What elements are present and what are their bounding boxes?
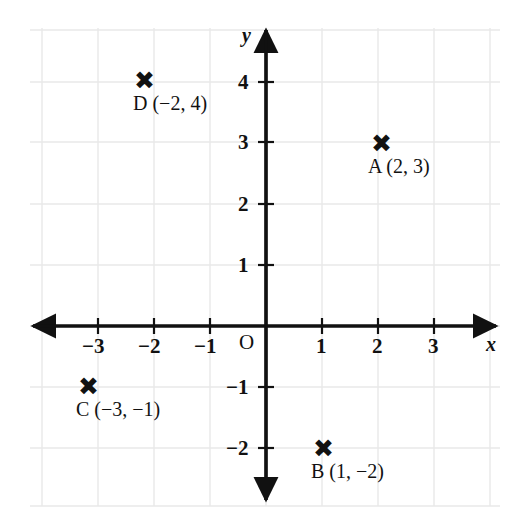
- y-tick-label-pos3: 3: [238, 132, 249, 153]
- x-tick-label-pos2: 2: [372, 336, 383, 357]
- x-tick-label-neg2: −2: [138, 336, 160, 357]
- x-tick-label-pos1: 1: [316, 336, 327, 357]
- x-tick-label-neg1: −1: [194, 336, 216, 357]
- y-tick-label-pos1: 1: [238, 255, 249, 276]
- point-marker-d[interactable]: ✖: [134, 68, 155, 93]
- y-axis-name: y: [242, 25, 251, 45]
- point-marker-c[interactable]: ✖: [78, 374, 99, 399]
- y-tick-label-neg2: −2: [226, 438, 248, 459]
- y-tick-label-neg1: −1: [226, 377, 248, 398]
- x-axis-name: x: [486, 334, 496, 354]
- x-tick-label-neg3: −3: [82, 336, 104, 357]
- graph-canvas: [0, 0, 519, 523]
- origin-label: O: [239, 332, 254, 353]
- point-label-c: C (−3, −1): [76, 399, 160, 419]
- point-marker-b[interactable]: ✖: [313, 436, 334, 461]
- point-label-a: A (2, 3): [368, 156, 430, 176]
- coordinate-plane-figure: y x O −3 −2 −1 1 2 3 4 3 2 1 −1 −2 ✖ D (…: [0, 0, 519, 523]
- point-label-d: D (−2, 4): [133, 93, 207, 113]
- x-tick-label-pos3: 3: [428, 336, 439, 357]
- y-tick-label-pos2: 2: [238, 194, 249, 215]
- point-marker-a[interactable]: ✖: [371, 131, 392, 156]
- point-label-b: B (1, −2): [311, 461, 384, 481]
- y-tick-label-pos4: 4: [238, 72, 249, 93]
